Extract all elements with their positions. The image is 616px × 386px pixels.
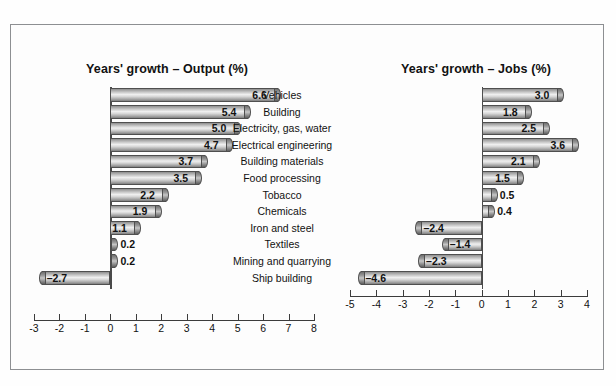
- bar-end-cap: [557, 88, 564, 102]
- axis-tick: [482, 290, 483, 297]
- bar-row: 1.8: [350, 104, 587, 121]
- bar-row: 2.5: [350, 120, 587, 137]
- axis-tick-label: 2: [531, 298, 537, 310]
- bar-value-label: 0.2: [120, 236, 135, 253]
- axis-tick: [376, 290, 377, 297]
- axis-tick-label: 0: [479, 298, 485, 310]
- bar-end-cap: [111, 254, 118, 268]
- category-label: Vehicles: [224, 87, 340, 104]
- axis-tick-label: 3: [558, 298, 564, 310]
- bar-value-label: 1.5: [495, 170, 510, 187]
- axis-tick-label: -1: [80, 322, 89, 334]
- axis-line: [34, 320, 314, 321]
- bar-row: 0.4: [350, 203, 587, 220]
- bar-end-cap: [358, 271, 365, 285]
- axis-tick-label: 4: [209, 322, 215, 334]
- chart-output-title: Years' growth – Output (%): [2, 62, 332, 76]
- bar-end-cap: [488, 205, 495, 219]
- axis-tick-label: -5: [345, 298, 354, 310]
- bar-value-label: 3.0: [535, 87, 550, 104]
- bar-end-cap: [543, 122, 550, 136]
- bar-end-cap: [162, 188, 169, 202]
- bar-value-label: 2.1: [511, 153, 526, 170]
- axis-tick: [161, 314, 162, 321]
- category-label: Electrical engineering: [224, 137, 340, 154]
- axis-tick-label: 3: [184, 322, 190, 334]
- axis-tick-label: 8: [311, 322, 317, 334]
- axis-tick: [187, 314, 188, 321]
- bar-value-label: 3.6: [550, 137, 565, 154]
- bar-value-label: 1.9: [133, 203, 148, 220]
- axis-tick: [34, 314, 35, 321]
- bar-row: 0.5: [350, 187, 587, 204]
- bar-end-cap: [525, 105, 532, 119]
- figure-page: Years' growth – Output (%) 6.65.45.04.73…: [0, 0, 616, 386]
- bar-end-cap: [572, 138, 579, 152]
- bar-value-label: 0.5: [500, 187, 515, 204]
- bar: [110, 188, 166, 202]
- axis-tick-label: 6: [260, 322, 266, 334]
- axis-tick-label: -2: [424, 298, 433, 310]
- bar-value-label: 2.2: [140, 187, 155, 204]
- bar-value-label: 0.2: [120, 253, 135, 270]
- bar: [482, 205, 493, 219]
- axis-tick-label: 2: [158, 322, 164, 334]
- bar-end-cap: [39, 271, 46, 285]
- axis-tick: [587, 290, 588, 297]
- bar-value-label: 4.7: [204, 137, 219, 154]
- category-label: Electricity, gas, water: [224, 120, 340, 137]
- bar-value-label: 3.7: [179, 153, 194, 170]
- axis-line: [350, 296, 587, 297]
- bar-value-label: –1.4: [450, 236, 470, 253]
- chart-jobs-x-axis: -5-4-3-2-101234: [350, 290, 587, 310]
- category-label: Tobacco: [224, 187, 340, 204]
- axis-tick-label: -4: [372, 298, 381, 310]
- chart-jobs: Years' growth – Jobs (%) 3.01.82.53.62.1…: [340, 24, 604, 370]
- bar-row: –4.6: [350, 270, 587, 287]
- axis-tick: [136, 314, 137, 321]
- axis-tick-label: -3: [398, 298, 407, 310]
- axis-tick-label: 4: [584, 298, 590, 310]
- bar-row: 2.1: [350, 153, 587, 170]
- axis-tick: [314, 314, 315, 321]
- axis-tick-label: 7: [286, 322, 292, 334]
- category-label: Mining and quarrying: [224, 253, 340, 270]
- category-label: Iron and steel: [224, 220, 340, 237]
- bar-end-cap: [195, 171, 202, 185]
- axis-tick-label: 1: [505, 298, 511, 310]
- bar-value-label: 1.1: [112, 220, 127, 237]
- category-label: Building materials: [224, 153, 340, 170]
- bar: [482, 155, 537, 169]
- category-label: Textiles: [224, 236, 340, 253]
- axis-tick: [238, 314, 239, 321]
- bar: [482, 122, 548, 136]
- bar-value-label: –2.3: [426, 253, 446, 270]
- axis-tick: [508, 290, 509, 297]
- chart-jobs-title: Years' growth – Jobs (%): [344, 62, 608, 76]
- chart-output-x-axis: -3-2-1012345678: [34, 314, 314, 334]
- bar-end-cap: [517, 171, 524, 185]
- bar-row: 3.6: [350, 137, 587, 154]
- bar: [482, 188, 495, 202]
- bar-value-label: –2.4: [423, 220, 443, 237]
- bar-value-label: –4.6: [366, 270, 386, 287]
- bar-value-label: –2.7: [47, 270, 67, 287]
- bar-end-cap: [418, 254, 425, 268]
- bar-value-label: 2.5: [522, 120, 537, 137]
- axis-tick: [212, 314, 213, 321]
- axis-tick: [561, 290, 562, 297]
- axis-tick: [455, 290, 456, 297]
- category-label: Ship building: [224, 270, 340, 287]
- axis-tick-label: -2: [55, 322, 64, 334]
- axis-tick-label: 5: [235, 322, 241, 334]
- bar-end-cap: [491, 188, 498, 202]
- axis-tick: [403, 290, 404, 297]
- axis-tick: [263, 314, 264, 321]
- bar-row: –2.3: [350, 253, 587, 270]
- chart-jobs-plot-area: 3.01.82.53.62.11.50.50.4–2.4–1.4–2.3–4.6: [350, 87, 587, 289]
- axis-tick: [289, 314, 290, 321]
- bar-value-label: 0.4: [497, 203, 512, 220]
- axis-tick: [534, 290, 535, 297]
- bar: [110, 254, 115, 268]
- bar-row: –2.4: [350, 220, 587, 237]
